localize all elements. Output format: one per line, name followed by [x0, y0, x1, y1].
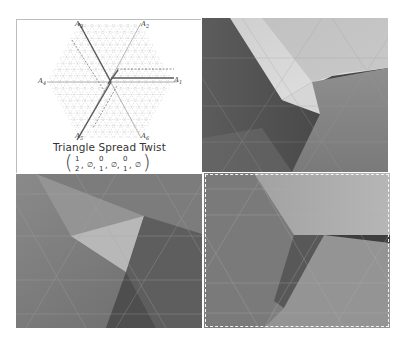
axis-label-a1: A1: [174, 76, 182, 85]
axis-label-a6: A6: [141, 132, 149, 141]
svg-text:2: 2: [75, 165, 79, 173]
svg-text:1: 1: [75, 155, 79, 163]
svg-text:1: 1: [123, 165, 127, 173]
svg-text:,: ,: [93, 161, 96, 170]
svg-text:0: 0: [99, 155, 103, 163]
photo-bottom-right: [204, 173, 390, 328]
svg-text:0: 0: [123, 155, 127, 163]
photo-top-right: [202, 18, 388, 172]
svg-text:,: ,: [81, 161, 84, 170]
svg-text:(: (: [65, 153, 72, 173]
svg-text:,: ,: [105, 161, 108, 170]
diagram-title: Triangle Spread Twist: [17, 141, 201, 153]
axis-label-a2: A2: [141, 20, 149, 29]
pleat-lines: [72, 40, 174, 128]
axis-label-a5: A5: [75, 132, 83, 141]
axis-lines: [47, 23, 177, 138]
diagram-tuple: ( 1 2 , ∅ , 0 1 , ∅ , 0 1 , ∅ ): [17, 153, 201, 173]
photo-bottom-left: [16, 174, 202, 328]
svg-text:1: 1: [99, 165, 103, 173]
crease-pattern-diagram: A4 A1 A3 A2 A5 A6 Triangle Spread Twist …: [16, 19, 201, 173]
svg-text:,: ,: [129, 161, 132, 170]
axis-label-a3: A3: [75, 20, 83, 29]
svg-text:,: ,: [117, 161, 120, 170]
axis-label-a4: A4: [38, 77, 46, 86]
twist-creases: [77, 23, 174, 140]
svg-text:): ): [143, 153, 150, 173]
svg-text:∅: ∅: [135, 161, 141, 169]
